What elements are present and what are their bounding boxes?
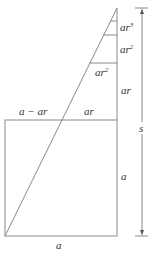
arrow-down-icon: [140, 230, 144, 235]
diagonal-line: [5, 8, 117, 236]
label-s: s: [139, 122, 143, 134]
label-a-right: a: [121, 170, 127, 182]
arrow-up-icon: [140, 9, 144, 14]
square: [5, 120, 117, 236]
label-ar-right: ar: [121, 84, 132, 96]
label-ar-top: ar: [84, 105, 95, 117]
label-ar2-inner: ar2: [95, 66, 109, 78]
label-ar2-right: ar2: [120, 43, 134, 55]
geometric-series-diagram: ar3 ar2 ar2 ar a − ar ar s a a: [0, 0, 157, 254]
label-a-minus-ar: a − ar: [19, 105, 48, 117]
label-a-bottom: a: [56, 239, 62, 251]
label-ar3: ar3: [120, 21, 134, 33]
